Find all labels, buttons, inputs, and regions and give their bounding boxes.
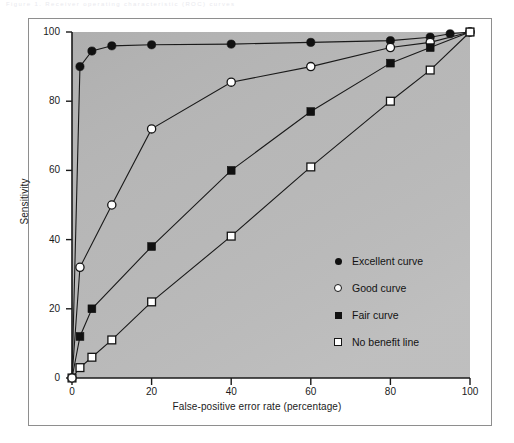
data-point	[88, 305, 96, 313]
filled-circle-icon	[333, 258, 343, 265]
data-point	[108, 201, 116, 209]
xtick-label-0: 0	[52, 386, 92, 397]
origin-data-point	[68, 374, 76, 382]
filled-square-icon	[333, 312, 343, 319]
data-point	[307, 163, 315, 171]
data-point	[307, 63, 315, 71]
open-circle-icon	[333, 284, 343, 292]
data-point	[227, 232, 235, 240]
data-point	[76, 364, 84, 372]
data-point	[466, 28, 474, 36]
data-point	[426, 44, 434, 52]
data-point	[307, 108, 315, 116]
xtick-label-40: 40	[211, 386, 251, 397]
legend-label-excellent-curve: Excellent curve	[352, 256, 423, 267]
roc-chart-plot	[0, 0, 514, 443]
data-point	[76, 263, 84, 271]
x-axis-title: False-positive error rate (percentage)	[0, 401, 514, 412]
data-point	[148, 298, 156, 306]
data-point	[227, 78, 235, 86]
data-point	[387, 97, 395, 105]
legend-label-no-benefit-line: No benefit line	[352, 337, 419, 348]
data-point	[88, 47, 96, 55]
ytick-label-0: 0	[20, 372, 60, 383]
data-point	[227, 167, 235, 175]
data-point	[108, 42, 116, 50]
data-point	[148, 243, 156, 251]
open-square-icon	[333, 338, 343, 346]
data-point	[426, 66, 434, 74]
roc-figure: Figure 1. Receiver operating characteris…	[0, 0, 514, 443]
data-point	[386, 43, 394, 51]
legend-item-fair-curve[interactable]: Fair curve	[333, 310, 399, 321]
xtick-label-20: 20	[132, 386, 172, 397]
data-point	[88, 353, 96, 361]
legend-label-fair-curve: Fair curve	[352, 310, 399, 321]
data-point	[148, 41, 156, 49]
ytick-label-100: 100	[20, 26, 60, 37]
xtick-label-80: 80	[370, 386, 410, 397]
legend-item-no-benefit-line[interactable]: No benefit line	[333, 337, 419, 348]
xtick-label-100: 100	[450, 386, 490, 397]
legend-item-excellent-curve[interactable]: Excellent curve	[333, 256, 423, 267]
ytick-label-80: 80	[20, 95, 60, 106]
data-point	[227, 40, 235, 48]
ytick-label-20: 20	[20, 303, 60, 314]
legend-label-good-curve: Good curve	[352, 283, 406, 294]
legend-item-good-curve[interactable]: Good curve	[333, 283, 406, 294]
data-point	[108, 336, 116, 344]
plot-scan-shading	[72, 32, 470, 378]
data-point	[387, 59, 395, 67]
y-axis-title: Sensitivity	[19, 152, 30, 252]
xtick-label-60: 60	[291, 386, 331, 397]
data-point	[76, 63, 84, 71]
data-point	[76, 333, 84, 341]
data-point	[148, 125, 156, 133]
data-point	[307, 38, 315, 46]
